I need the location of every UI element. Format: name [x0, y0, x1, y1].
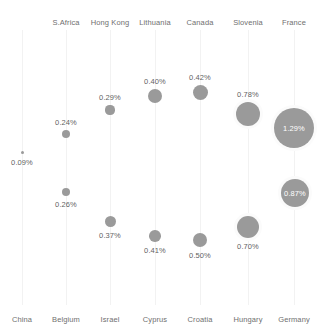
value-label-croatia: 0.50% — [170, 251, 230, 260]
bubble-s-africa[interactable] — [62, 130, 70, 138]
value-label-slovenia: 0.78% — [218, 90, 278, 99]
gridline-2 — [110, 30, 111, 305]
value-label-israel: 0.37% — [80, 231, 140, 240]
bubble-hungary[interactable] — [237, 216, 259, 238]
top-axis-label-france: France — [254, 18, 318, 27]
value-label-belgium: 0.26% — [36, 200, 96, 209]
value-label-hungary: 0.70% — [218, 242, 278, 251]
value-label-china: 0.09% — [0, 158, 52, 167]
gridline-4 — [200, 30, 201, 305]
bubble-cyprus[interactable] — [149, 230, 161, 242]
gridline-5 — [248, 30, 249, 305]
bubble-belgium[interactable] — [62, 188, 70, 196]
bubble-china[interactable] — [21, 151, 24, 154]
value-label-canada: 0.42% — [170, 73, 230, 82]
value-label-hong-kong: 0.29% — [80, 93, 140, 102]
bubble-hong-kong[interactable] — [105, 105, 114, 114]
gridline-0 — [22, 30, 23, 305]
bubble-israel[interactable] — [105, 216, 116, 227]
value-label-germany: 0.87% — [265, 189, 318, 198]
gridline-1 — [66, 30, 67, 305]
bubble-lithuania[interactable] — [148, 89, 162, 103]
bottom-axis-label-germany: Germany — [254, 315, 318, 324]
bubble-slovenia[interactable] — [236, 102, 260, 126]
gridline-3 — [155, 30, 156, 305]
bubble-canada[interactable] — [193, 85, 208, 100]
bubble-chart: S.AfricaHong KongLithuaniaCanadaSlovenia… — [0, 0, 318, 336]
gridline-6 — [294, 30, 295, 305]
bubble-croatia[interactable] — [193, 233, 207, 247]
value-label-s-africa: 0.24% — [36, 118, 96, 127]
value-label-france: 1.29% — [264, 124, 318, 133]
